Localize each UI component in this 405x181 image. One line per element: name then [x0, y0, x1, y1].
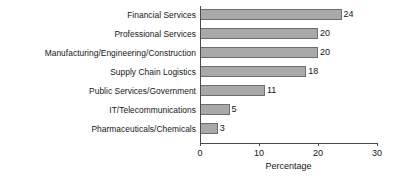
x-tick-label-30: 30 [372, 148, 382, 159]
bar-pharmaceuticals-chemicals [200, 123, 218, 134]
x-tick-label-0: 0 [197, 148, 202, 159]
value-label-financial-services: 24 [344, 9, 354, 20]
bar-it-telecommunications [200, 104, 230, 115]
bar-manufacturing-engineering-construction [200, 47, 318, 58]
category-label-pharmaceuticals-chemicals: Pharmaceuticals/Chemicals [0, 124, 196, 134]
bar-public-services-government [200, 85, 265, 96]
bar-financial-services [200, 9, 342, 20]
category-label-manufacturing-engineering-construction: Manufacturing/Engineering/Construction [0, 48, 196, 58]
value-label-pharmaceuticals-chemicals: 3 [220, 123, 225, 134]
value-label-it-telecommunications: 5 [232, 104, 237, 115]
x-axis-line [200, 143, 377, 144]
category-label-financial-services: Financial Services [0, 10, 196, 20]
bar-professional-services [200, 28, 318, 39]
value-label-manufacturing-engineering-construction: 20 [320, 47, 330, 58]
category-label-supply-chain-logistics: Supply Chain Logistics [0, 67, 196, 77]
value-label-supply-chain-logistics: 18 [308, 66, 318, 77]
category-label-professional-services: Professional Services [0, 29, 196, 39]
category-label-public-services-government: Public Services/Government [0, 86, 196, 96]
plot-area: 24 20 20 18 11 5 3 [200, 6, 377, 142]
value-label-professional-services: 20 [320, 28, 330, 39]
x-tick-20 [318, 143, 319, 146]
y-axis-line [200, 6, 201, 143]
value-label-public-services-government: 11 [267, 85, 276, 96]
x-tick-label-10: 10 [254, 148, 264, 159]
x-axis-title: Percentage [200, 161, 377, 172]
x-tick-label-20: 20 [313, 148, 323, 159]
x-tick-10 [259, 143, 260, 146]
x-tick-30 [377, 143, 378, 146]
bar-supply-chain-logistics [200, 66, 306, 77]
category-label-it-telecommunications: IT/Telecommunications [0, 105, 196, 115]
x-tick-0 [200, 143, 201, 146]
category-axis-labels: Financial Services Professional Services… [0, 0, 196, 140]
bar-chart: Financial Services Professional Services… [0, 0, 405, 181]
